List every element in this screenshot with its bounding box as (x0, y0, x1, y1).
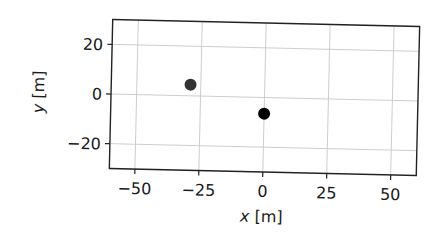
x-axis-label: x [m] (239, 206, 283, 226)
y-tick-label: 20 (83, 35, 104, 54)
x-tick-label: 0 (257, 182, 268, 201)
y-axis-ticks: −20020 (67, 34, 112, 153)
x-tick-label: −25 (181, 180, 215, 200)
x-tick-label: −50 (117, 179, 151, 199)
x-tick-label: 50 (380, 185, 401, 204)
scatter-figure: −50−2502550 −20020 x [m] y [m] (0, 0, 437, 242)
y-tick-label: 0 (92, 85, 103, 104)
x-tick-label: 25 (316, 183, 337, 202)
y-tick-label: −20 (67, 134, 101, 154)
y-axis-label: y [m] (29, 70, 49, 114)
